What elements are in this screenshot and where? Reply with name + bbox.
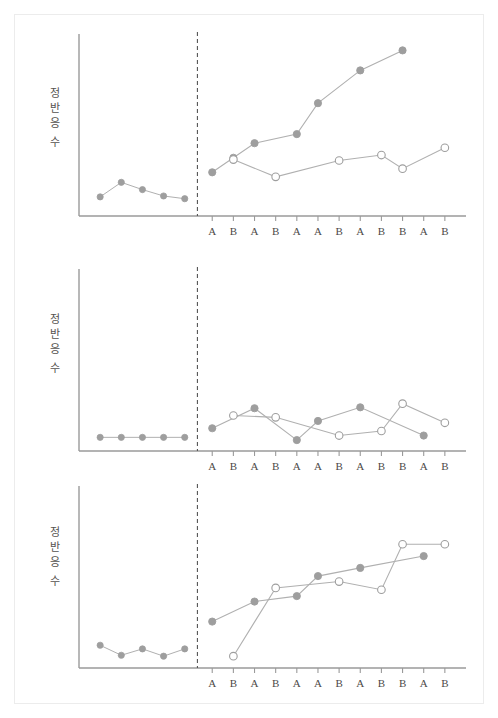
x-tick-label: B	[230, 460, 237, 472]
data-point-filled	[420, 552, 427, 559]
data-point-filled	[357, 404, 364, 411]
baseline-data-point	[97, 434, 103, 440]
x-tick-label: B	[272, 460, 279, 472]
x-tick-label: B	[399, 225, 406, 237]
baseline-data-point	[118, 179, 124, 185]
data-point-filled	[399, 47, 406, 54]
data-point-open	[335, 157, 343, 165]
panel-3-y-axis-label: 정 반 응 수	[42, 525, 68, 589]
baseline-data-point	[139, 434, 145, 440]
data-point-filled	[314, 100, 321, 107]
x-tick-label: A	[356, 460, 364, 472]
data-point-open	[378, 586, 386, 594]
data-point-filled	[209, 169, 216, 176]
panel-3-plot: ABABAABABBAB	[0, 472, 498, 702]
x-tick-label: A	[251, 460, 259, 472]
data-point-open	[441, 144, 449, 152]
x-tick-label: A	[420, 460, 428, 472]
y-label-char-0: 정	[42, 86, 68, 101]
filled-series	[209, 552, 428, 625]
data-point-open	[230, 156, 238, 164]
x-tick-label: B	[272, 677, 279, 689]
data-point-filled	[357, 564, 364, 571]
x-tick-label: A	[314, 677, 322, 689]
data-point-filled	[314, 572, 321, 579]
panel-2: 정 반 응 수 ABABAABABBAB	[0, 255, 498, 485]
data-point-open	[230, 652, 238, 660]
x-tick-label: A	[293, 677, 301, 689]
y-label-char-3: 수	[42, 574, 68, 589]
x-tick-label: B	[335, 225, 342, 237]
y-label-char-2: 응	[42, 342, 68, 357]
y-label-char-2: 응	[42, 555, 68, 570]
open-series	[230, 144, 449, 181]
open-series	[230, 400, 449, 439]
x-tick-label: B	[230, 677, 237, 689]
data-point-open	[335, 432, 343, 440]
baseline-data-point	[97, 194, 103, 200]
x-tick-label: A	[251, 225, 259, 237]
filled-series	[209, 47, 407, 176]
data-point-open	[230, 412, 238, 420]
data-point-open	[272, 584, 280, 592]
x-tick-label: A	[356, 677, 364, 689]
data-point-open	[378, 427, 386, 435]
baseline-data-point	[182, 646, 188, 652]
data-point-filled	[209, 425, 216, 432]
y-label-char-3: 수	[42, 135, 68, 150]
x-tick-label: B	[399, 460, 406, 472]
data-point-open	[378, 151, 386, 159]
data-point-open	[441, 419, 449, 427]
y-label-char-3: 수	[42, 361, 68, 376]
x-tick-label: A	[420, 225, 428, 237]
panel-3: 정 반 응 수 ABABAABABBAB	[0, 472, 498, 702]
x-tick-label: B	[378, 677, 385, 689]
panel-1: 정 반 응 수 ABABAABABBAB	[0, 20, 498, 250]
x-tick-label: B	[230, 225, 237, 237]
data-point-filled	[420, 432, 427, 439]
panel-2-y-axis-label: 정 반 응 수	[42, 312, 68, 376]
x-tick-label: B	[378, 460, 385, 472]
x-tick-label: A	[293, 225, 301, 237]
data-point-filled	[293, 131, 300, 138]
x-tick-label: A	[208, 677, 216, 689]
baseline-data-point	[139, 187, 145, 193]
data-point-filled	[251, 598, 258, 605]
data-point-open	[272, 173, 280, 181]
x-tick-label: B	[378, 225, 385, 237]
baseline-data-point	[118, 652, 124, 658]
baseline-data-point	[139, 646, 145, 652]
data-point-open	[399, 400, 407, 408]
x-tick-label: A	[208, 460, 216, 472]
data-point-open	[272, 414, 280, 422]
x-tick-label: B	[335, 677, 342, 689]
data-point-filled	[251, 140, 258, 147]
x-tick-label: A	[208, 225, 216, 237]
figure-page: 정 반 응 수 ABABAABABBAB 정 반 응 수 ABABAABABBA…	[0, 0, 498, 718]
baseline-data-point	[97, 642, 103, 648]
y-label-char-0: 정	[42, 312, 68, 327]
panel-1-y-axis-label: 정 반 응 수	[42, 86, 68, 150]
y-label-char-0: 정	[42, 525, 68, 540]
baseline-data-point	[160, 653, 166, 659]
x-tick-label: B	[441, 677, 448, 689]
x-axis-ticks: ABABAABABBAB	[208, 451, 448, 472]
y-label-char-1: 반	[42, 540, 68, 555]
data-point-filled	[251, 405, 258, 412]
data-point-filled	[314, 417, 321, 424]
x-tick-label: A	[356, 225, 364, 237]
x-tick-label: A	[293, 460, 301, 472]
panel-1-plot: ABABAABABBAB	[0, 20, 498, 250]
series-line	[212, 50, 402, 172]
y-label-char-1: 반	[42, 101, 68, 116]
baseline-data-point	[160, 434, 166, 440]
y-label-char-2: 응	[42, 116, 68, 131]
x-tick-label: B	[272, 225, 279, 237]
baseline-data-point	[182, 196, 188, 202]
data-point-open	[399, 165, 407, 173]
data-point-filled	[357, 67, 364, 74]
x-tick-label: A	[251, 677, 259, 689]
baseline-data-point	[118, 434, 124, 440]
x-tick-label: A	[314, 225, 322, 237]
x-tick-label: B	[399, 677, 406, 689]
